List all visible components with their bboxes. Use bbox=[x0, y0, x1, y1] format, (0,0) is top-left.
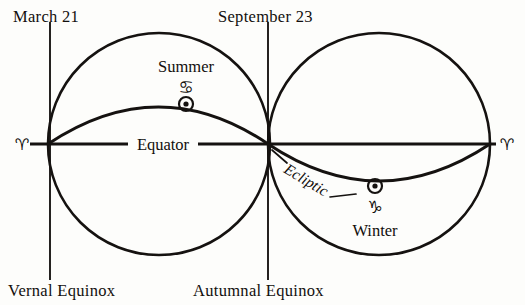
vernal-equinox-label: Vernal Equinox bbox=[8, 281, 116, 300]
equator-label: Equator bbox=[137, 135, 190, 154]
capricorn-glyph: ♑ bbox=[367, 197, 382, 217]
celestial-sphere-diagram: ♈ ♈ March 21 September 23 Vernal Equinox… bbox=[0, 0, 525, 305]
summer-label: Summer bbox=[158, 57, 214, 76]
september-23-label: September 23 bbox=[218, 7, 313, 26]
autumnal-equinox-label: Autumnal Equinox bbox=[193, 281, 324, 300]
cancer-glyph: ♋ bbox=[178, 77, 193, 97]
march-21-label: March 21 bbox=[13, 7, 79, 26]
aries-glyph-left: ♈ bbox=[15, 135, 29, 154]
diagram-canvas: ♈ ♈ March 21 September 23 Vernal Equinox… bbox=[0, 0, 525, 305]
ecliptic-label-underline bbox=[330, 194, 356, 197]
winter-label: Winter bbox=[352, 221, 398, 240]
aries-glyph-right: ♈ bbox=[500, 135, 514, 154]
